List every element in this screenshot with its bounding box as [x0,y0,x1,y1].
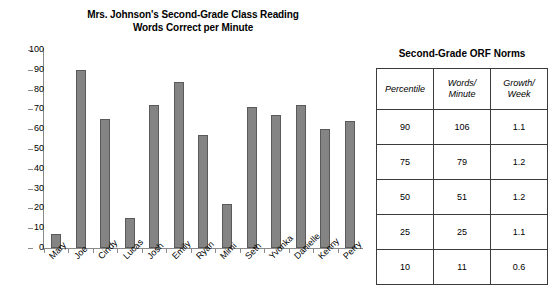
x-axis-tick-mark [93,249,94,253]
x-axis-tick-mark [289,249,290,253]
table-row: 901061.1 [377,110,548,145]
bar [271,115,281,248]
bar [149,105,159,248]
x-axis-tick-mark [44,249,45,253]
table-cell-words-per-minute: 25 [434,215,491,250]
bar [320,129,330,248]
table-cell-percentile: 75 [377,145,434,180]
bar [76,70,86,248]
y-axis-tick-mark [28,90,33,91]
column-header-growth-per-week-line2: Week [491,89,547,100]
x-axis-tick-mark [68,249,69,253]
bar [198,135,208,248]
table-cell-words-per-minute: 51 [434,180,491,215]
chart-title-line-1: Mrs. Johnson's Second-Grade Class Readin… [28,8,358,21]
bar [174,82,184,248]
y-axis-tick-mark [28,70,33,71]
table-cell-percentile: 25 [377,215,434,250]
x-axis-tick-mark [191,249,192,253]
table-title: Second-Grade ORF Norms [374,48,550,59]
y-axis-tick-mark [28,228,33,229]
y-axis-tick-mark [28,129,33,130]
table-cell-words-per-minute: 106 [434,110,491,145]
table-cell-growth-per-week: 1.2 [491,180,548,215]
table-cell-words-per-minute: 79 [434,145,491,180]
column-header-words-per-minute-line2: Minute [434,89,490,100]
x-axis-tick-mark [264,249,265,253]
table-header: Percentile Words/ Minute Growth/ Week [377,69,548,110]
y-axis-tick-mark [28,169,33,170]
x-axis-tick-mark [215,249,216,253]
table-cell-growth-per-week: 1.2 [491,145,548,180]
y-axis-tick-mark [28,109,33,110]
column-header-growth-per-week-line1: Growth/ [491,78,547,89]
table-header-row: Percentile Words/ Minute Growth/ Week [377,69,548,110]
table-row: 25251.1 [377,215,548,250]
x-axis-tick-mark [142,249,143,253]
table-cell-growth-per-week: 1.1 [491,215,548,250]
table-row: 10110.6 [377,250,548,285]
reading-fluency-chart-panel: Mrs. Johnson's Second-Grade Class Readin… [0,0,372,303]
x-axis-tick-mark [166,249,167,253]
table-row: 50511.2 [377,180,548,215]
y-axis-tick-mark [28,50,33,51]
bar [345,121,355,248]
y-axis-tick-mark [28,248,33,249]
column-header-percentile-line1: Percentile [377,84,433,95]
x-axis-label: Joe [72,244,89,261]
bar [100,119,110,248]
table-cell-percentile: 90 [377,110,434,145]
table-cell-percentile: 10 [377,250,434,285]
chart-title-line-2: Words Correct per Minute [28,21,358,34]
column-header-percentile: Percentile [377,69,434,110]
table-cell-growth-per-week: 1.1 [491,110,548,145]
table-row: 75791.2 [377,145,548,180]
bar [296,105,306,248]
table-body: 901061.175791.250511.225251.110110.6 [377,110,548,285]
x-axis-tick-mark [338,249,339,253]
orf-norms-table: Percentile Words/ Minute Growth/ Week 90… [376,68,548,285]
table-cell-percentile: 50 [377,180,434,215]
column-header-growth-per-week: Growth/ Week [491,69,548,110]
x-axis-tick-mark [117,249,118,253]
y-axis-tick-mark [28,149,33,150]
table-cell-growth-per-week: 0.6 [491,250,548,285]
orf-norms-panel: Second-Grade ORF Norms Percentile Words/… [374,0,556,303]
chart-title: Mrs. Johnson's Second-Grade Class Readin… [28,8,358,34]
x-axis-tick-mark [240,249,241,253]
column-header-words-per-minute: Words/ Minute [434,69,491,110]
column-header-words-per-minute-line1: Words/ [434,78,490,89]
table-cell-words-per-minute: 11 [434,250,491,285]
x-axis-tick-mark [313,249,314,253]
bar [247,107,257,248]
y-axis-tick-mark [28,208,33,209]
y-axis-tick-mark [28,189,33,190]
